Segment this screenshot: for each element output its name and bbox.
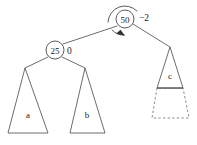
- subtree-a: a: [8, 68, 48, 133]
- node-50-key: 50: [121, 15, 131, 25]
- tree-diagram-canvas: a b c 50 −2: [0, 0, 197, 145]
- node-50-balance-factor: −2: [139, 13, 149, 23]
- subtree-c-label: c: [168, 71, 172, 81]
- rotation-arrowhead-icon: [117, 30, 125, 36]
- subtree-c-triangle: [157, 47, 183, 88]
- subtree-b: b: [70, 68, 105, 133]
- edge-left-child-to-subtree-b: [62, 57, 85, 68]
- edge-root-to-left-child: [63, 26, 117, 44]
- node-25[interactable]: 25: [46, 41, 64, 59]
- edge-left-child-to-subtree-a: [25, 57, 48, 68]
- subtree-c: c: [152, 47, 189, 118]
- node-50[interactable]: 50: [108, 6, 137, 35]
- subtree-b-label: b: [85, 110, 90, 120]
- subtree-a-triangle: [8, 68, 48, 133]
- avl-tree-rotation-diagram: a b c 50 −2: [0, 0, 197, 145]
- subtree-a-label: a: [26, 110, 30, 120]
- subtree-c-dashed-extension: [152, 88, 189, 118]
- node-25-key: 25: [51, 46, 61, 56]
- node-25-balance-factor: 0: [67, 46, 72, 56]
- subtree-b-triangle: [70, 68, 105, 133]
- edge-root-to-subtree-c: [133, 24, 170, 47]
